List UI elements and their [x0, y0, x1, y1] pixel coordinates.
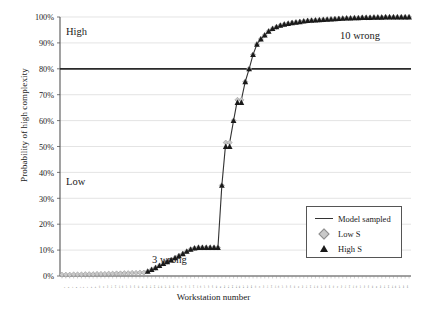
legend-line-icon: [312, 218, 336, 219]
annotation-high: High: [66, 26, 87, 37]
x-tick-label: 81: [375, 285, 378, 288]
x-tick-label: 88: [402, 285, 405, 288]
x-tick-label: 53: [266, 285, 269, 288]
x-axis-title: Workstation number: [0, 292, 427, 302]
x-tick-label: 8: [90, 287, 93, 288]
x-tick-label: 32: [184, 285, 187, 288]
x-tick-label: 29: [172, 285, 175, 288]
x-tick-label: 69: [328, 285, 331, 288]
legend-item-model-sampled: Model sampled: [312, 211, 396, 226]
x-tick-label: 28: [168, 285, 171, 288]
x-tick-label: 2: [67, 287, 70, 288]
x-tick-label: 13: [110, 285, 113, 288]
x-tick-label: 66: [316, 285, 319, 288]
x-tick-label: 74: [348, 285, 351, 288]
legend-label-model-sampled: Model sampled: [336, 214, 391, 224]
legend-diamond-icon: [312, 230, 336, 238]
x-tick-label: 63: [305, 285, 308, 288]
annotation-three-wrong: 3 wrong: [152, 254, 187, 265]
y-tick-label: 20%: [39, 220, 54, 229]
x-tick-label: 39: [211, 285, 214, 288]
x-tick-label: 61: [297, 285, 300, 288]
x-tick-label: 86: [394, 285, 397, 288]
y-tick-label: 70%: [39, 91, 54, 100]
x-tick-label: 40: [215, 285, 218, 288]
x-tick-label: 64: [309, 285, 312, 288]
x-tick-label: 23: [149, 285, 152, 288]
x-tick-label: 67: [320, 285, 323, 288]
x-tick-label: 44: [231, 285, 234, 288]
x-tick-label: 36: [199, 285, 202, 288]
x-tick-label: 79: [367, 285, 370, 288]
x-tick-label: 4: [75, 287, 78, 288]
x-tick-label: 21: [141, 285, 144, 288]
x-tick-label: 19: [133, 285, 136, 288]
annotation-ten-wrong: 10 wrong: [340, 30, 380, 41]
x-axis-tick-labels: 1234567891011121314151617181920212223242…: [60, 277, 410, 290]
y-tick-label: 40%: [39, 169, 54, 178]
x-tick-label: 48: [246, 285, 249, 288]
y-tick-label: 80%: [39, 65, 54, 74]
y-tick-label: 30%: [39, 195, 54, 204]
legend-label-high-s: High S: [336, 244, 362, 254]
x-tick-label: 38: [207, 285, 210, 288]
x-tick-label: 50: [254, 285, 257, 288]
y-tick-label: 10%: [39, 246, 54, 255]
x-tick-label: 89: [406, 285, 409, 288]
x-tick-label: 77: [359, 285, 362, 288]
x-tick-label: 41: [219, 285, 222, 288]
x-tick-label: 71: [336, 285, 339, 288]
x-tick-label: 22: [145, 285, 148, 288]
x-tick-label: 14: [114, 285, 117, 288]
x-tick-label: 72: [340, 285, 343, 288]
legend-item-low-s: Low S: [312, 226, 396, 241]
x-tick-label: 7: [86, 287, 89, 288]
x-tick-label: 51: [258, 285, 261, 288]
x-tick-label: 52: [262, 285, 265, 288]
x-tick-label: 84: [387, 285, 390, 288]
x-tick-label: 47: [242, 285, 245, 288]
y-axis-title: Probability of high complexity: [19, 15, 29, 235]
x-tick-label: 24: [153, 285, 156, 288]
annotation-low: Low: [66, 176, 85, 187]
legend-item-high-s: High S: [312, 241, 396, 256]
x-tick-label: 56: [277, 285, 280, 288]
x-tick-label: 58: [285, 285, 288, 288]
x-tick-label: 34: [192, 285, 195, 288]
x-tick-label: 37: [203, 285, 206, 288]
x-tick-label: 26: [160, 285, 163, 288]
x-tick-label: 78: [363, 285, 366, 288]
x-tick-label: 68: [324, 285, 327, 288]
probability-chart: 0%10%20%30%40%50%60%70%80%90%100% Probab…: [0, 0, 427, 314]
x-tick-label: 59: [289, 285, 292, 288]
x-tick-label: 49: [250, 285, 253, 288]
x-tick-label: 33: [188, 285, 191, 288]
x-tick-label: 12: [106, 285, 109, 288]
x-tick-label: 9: [94, 287, 97, 288]
x-tick-label: 18: [129, 285, 132, 288]
x-tick-label: 1: [63, 287, 66, 288]
x-tick-label: 20: [137, 285, 140, 288]
x-tick-label: 82: [379, 285, 382, 288]
x-tick-label: 83: [383, 285, 386, 288]
plot-canvas: 0%10%20%30%40%50%60%70%80%90%100%: [0, 0, 427, 314]
x-tick-label: 76: [355, 285, 358, 288]
x-tick-label: 16: [121, 285, 124, 288]
x-tick-label: 87: [398, 285, 401, 288]
x-tick-label: 62: [301, 285, 304, 288]
y-tick-label: 50%: [39, 143, 54, 152]
x-tick-label: 11: [102, 286, 105, 289]
x-tick-label: 31: [180, 285, 183, 288]
x-tick-label: 80: [371, 285, 374, 288]
y-tick-label: 0%: [43, 272, 54, 281]
legend-label-low-s: Low S: [336, 229, 360, 239]
x-tick-label: 60: [293, 285, 296, 288]
x-tick-label: 70: [332, 285, 335, 288]
x-tick-label: 42: [223, 285, 226, 288]
x-tick-label: 3: [71, 287, 74, 288]
legend-triangle-icon: [312, 245, 336, 252]
y-tick-label: 90%: [39, 39, 54, 48]
x-tick-label: 43: [227, 285, 230, 288]
x-tick-label: 10: [98, 285, 101, 288]
x-tick-label: 46: [238, 285, 241, 288]
